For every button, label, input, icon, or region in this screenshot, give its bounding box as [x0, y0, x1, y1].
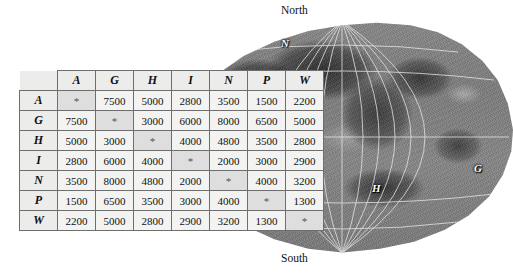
matrix-cell: 3500: [58, 171, 96, 191]
distance-matrix-table: AGHINPW A*750050002800350015002200G7500*…: [19, 70, 324, 231]
matrix-cell-diagonal: *: [58, 91, 96, 111]
matrix-col-header-N: N: [210, 71, 248, 91]
matrix-cell: 6000: [96, 151, 134, 171]
matrix-cell: 7500: [96, 91, 134, 111]
matrix-row-header-P: P: [20, 191, 58, 211]
matrix-cell: 3200: [286, 171, 324, 191]
matrix-cell-diagonal: *: [172, 151, 210, 171]
matrix-corner-cell: [20, 71, 58, 91]
matrix-cell: 5000: [286, 111, 324, 131]
distance-matrix: AGHINPW A*750050002800350015002200G7500*…: [19, 70, 324, 231]
matrix-cell: 2800: [172, 91, 210, 111]
matrix-cell-diagonal: *: [286, 211, 324, 231]
matrix-cell: 3000: [172, 191, 210, 211]
matrix-header: AGHINPW: [20, 71, 324, 91]
matrix-cell: 5000: [134, 91, 172, 111]
matrix-row: P15006500350030004000*1300: [20, 191, 324, 211]
matrix-row: W220050002800290032001300*: [20, 211, 324, 231]
matrix-row: G7500*30006000800065005000: [20, 111, 324, 131]
matrix-cell: 4000: [210, 191, 248, 211]
matrix-row: A*750050002800350015002200: [20, 91, 324, 111]
matrix-cell: 4000: [134, 151, 172, 171]
matrix-cell: 3500: [134, 191, 172, 211]
matrix-row: H50003000*4000480035002800: [20, 131, 324, 151]
matrix-cell: 3500: [248, 131, 286, 151]
south-pole-label: South: [281, 252, 308, 264]
matrix-cell: 6500: [248, 111, 286, 131]
matrix-col-header-G: G: [96, 71, 134, 91]
matrix-cell: 2800: [286, 131, 324, 151]
matrix-cell: 5000: [96, 211, 134, 231]
matrix-row: I280060004000*200030002900: [20, 151, 324, 171]
matrix-cell: 1500: [248, 91, 286, 111]
matrix-cell: 2800: [134, 211, 172, 231]
matrix-row-header-A: A: [20, 91, 58, 111]
matrix-cell-diagonal: *: [96, 111, 134, 131]
matrix-cell: 8000: [210, 111, 248, 131]
map-node-label-G: G: [474, 163, 482, 174]
matrix-cell: 3200: [210, 211, 248, 231]
matrix-cell: 3000: [248, 151, 286, 171]
figure-canvas: N I A W P H G North South AGHINPW A*7500…: [0, 0, 513, 274]
matrix-cell: 3000: [96, 131, 134, 151]
matrix-cell-diagonal: *: [210, 171, 248, 191]
map-node-label-N: N: [281, 38, 289, 49]
map-node-label-H: H: [372, 183, 381, 194]
matrix-col-header-P: P: [248, 71, 286, 91]
matrix-cell: 4000: [172, 131, 210, 151]
matrix-body: A*750050002800350015002200G7500*30006000…: [20, 91, 324, 231]
matrix-cell: 7500: [58, 111, 96, 131]
matrix-col-header-W: W: [286, 71, 324, 91]
matrix-row-header-I: I: [20, 151, 58, 171]
matrix-cell: 3000: [134, 111, 172, 131]
matrix-col-header-A: A: [58, 71, 96, 91]
matrix-cell: 3500: [210, 91, 248, 111]
matrix-cell: 2200: [58, 211, 96, 231]
matrix-cell: 2000: [210, 151, 248, 171]
matrix-cell: 2900: [286, 151, 324, 171]
matrix-cell: 4800: [134, 171, 172, 191]
matrix-cell: 6500: [96, 191, 134, 211]
matrix-header-row: AGHINPW: [20, 71, 324, 91]
matrix-cell: 2900: [172, 211, 210, 231]
matrix-cell-diagonal: *: [248, 191, 286, 211]
matrix-col-header-I: I: [172, 71, 210, 91]
matrix-cell-diagonal: *: [134, 131, 172, 151]
matrix-cell: 2800: [58, 151, 96, 171]
matrix-cell: 5000: [58, 131, 96, 151]
matrix-cell: 1300: [286, 191, 324, 211]
matrix-row-header-H: H: [20, 131, 58, 151]
matrix-row: N3500800048002000*40003200: [20, 171, 324, 191]
north-pole-label: North: [281, 4, 308, 16]
matrix-cell: 4000: [248, 171, 286, 191]
matrix-cell: 1500: [58, 191, 96, 211]
matrix-row-header-G: G: [20, 111, 58, 131]
matrix-cell: 4800: [210, 131, 248, 151]
matrix-row-header-N: N: [20, 171, 58, 191]
matrix-row-header-W: W: [20, 211, 58, 231]
matrix-cell: 6000: [172, 111, 210, 131]
matrix-cell: 2000: [172, 171, 210, 191]
matrix-cell: 8000: [96, 171, 134, 191]
matrix-cell: 1300: [248, 211, 286, 231]
matrix-col-header-H: H: [134, 71, 172, 91]
matrix-cell: 2200: [286, 91, 324, 111]
